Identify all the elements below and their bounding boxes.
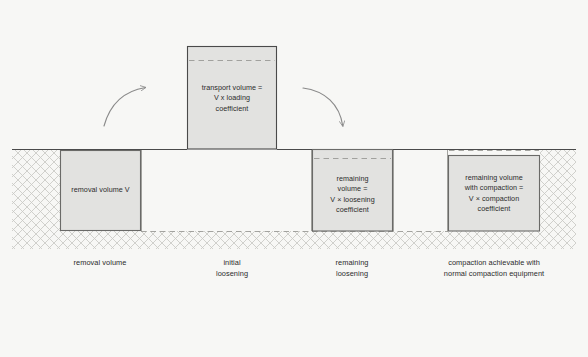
diagram-graphics <box>0 0 588 357</box>
box-transport-volume <box>188 47 277 150</box>
box-remaining-volume-compacted <box>449 151 540 232</box>
caption-remaining-loosening: remaining loosening <box>302 258 402 279</box>
box-removal-volume <box>61 151 141 231</box>
caption-removal-volume: removal volume <box>40 258 160 269</box>
box-remaining-volume <box>313 150 393 232</box>
diagram-canvas: removal volume V transport volume = V x … <box>0 0 588 357</box>
caption-initial-loosening: initial loosening <box>182 258 282 279</box>
caption-compaction-achievable: compaction achievable with normal compac… <box>414 258 574 279</box>
